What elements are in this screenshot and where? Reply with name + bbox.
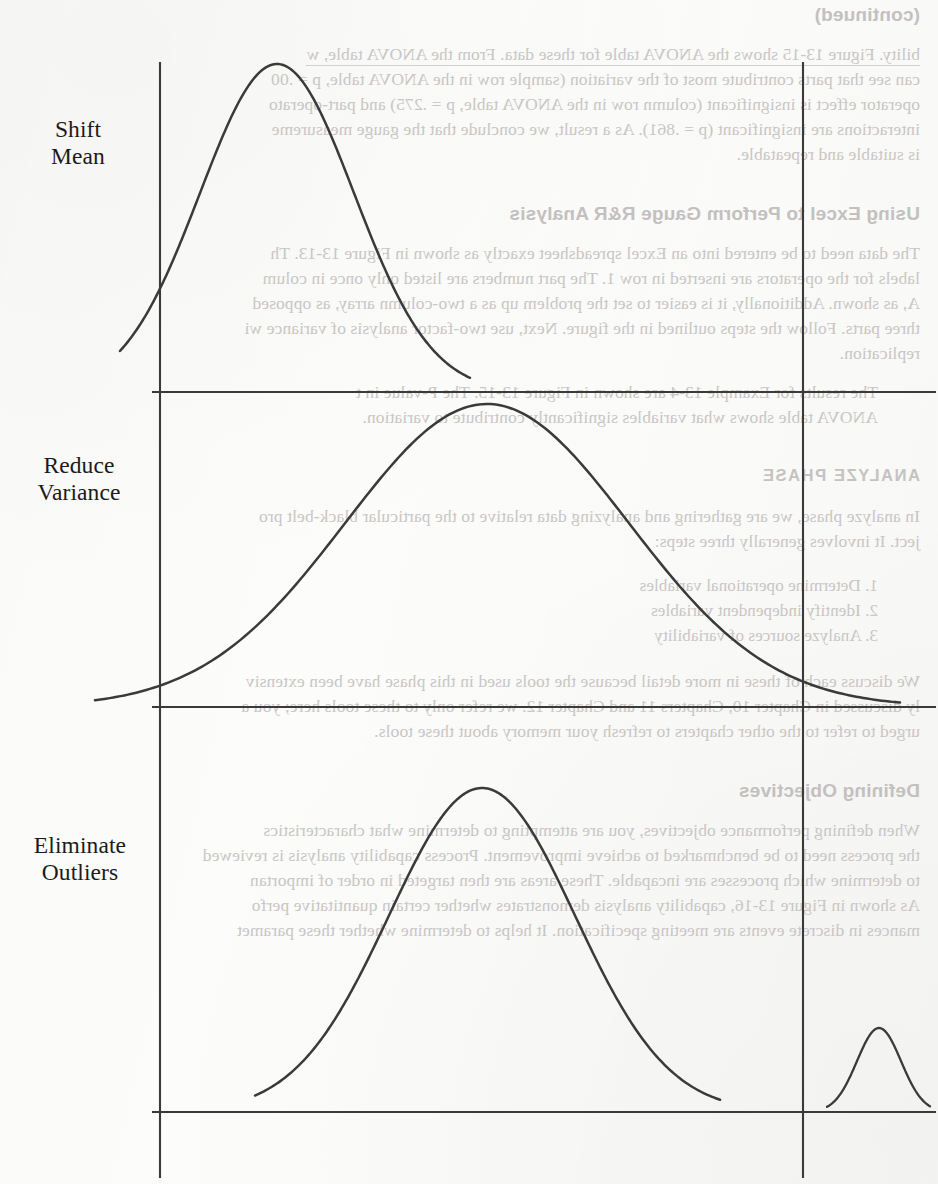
label-line-2: Outliers	[4, 859, 156, 886]
distribution-curve	[120, 64, 470, 378]
label-line-1: Eliminate	[4, 832, 156, 859]
label-line-1: Reduce	[8, 452, 150, 479]
label-line-2: Variance	[8, 479, 150, 506]
label-line-1: Shift	[12, 116, 144, 143]
main-distribution-curve	[255, 788, 720, 1100]
panel-3	[255, 788, 930, 1107]
panel-2	[95, 404, 900, 703]
distribution-curve	[95, 404, 900, 703]
outlier-cluster-curve	[827, 1028, 930, 1107]
label-reduce-variance: Reduce Variance	[8, 452, 150, 506]
figure-svg	[0, 0, 938, 1184]
label-eliminate-outliers: Eliminate Outliers	[4, 832, 156, 886]
panel-1	[120, 64, 470, 378]
scanned-page: (continued)bility. Figure 13-15 shows th…	[0, 0, 938, 1184]
label-line-2: Mean	[12, 143, 144, 170]
label-shift-mean: Shift Mean	[12, 116, 144, 170]
figure-artwork	[0, 0, 938, 1184]
